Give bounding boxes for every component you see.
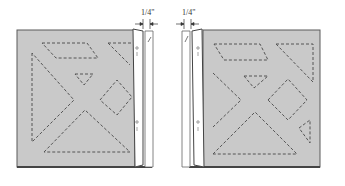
- right-measurement: [176, 19, 199, 29]
- right-quilt-panel: [189, 30, 320, 167]
- left-binding-strip: [133, 29, 153, 167]
- left-quarter-inch-label: 1/4": [141, 8, 155, 17]
- right-binding-strip: [182, 29, 204, 167]
- binding-diagram: [0, 0, 345, 186]
- left-quilt-panel: [17, 30, 152, 167]
- right-quarter-inch-label: 1/4": [182, 8, 196, 17]
- left-measurement: [135, 19, 158, 29]
